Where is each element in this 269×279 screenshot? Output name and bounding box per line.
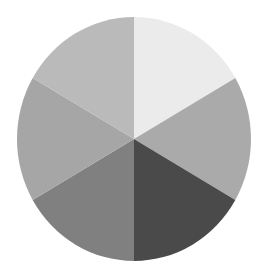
pie-chart-svg [0,0,269,279]
pie-chart [0,0,269,279]
